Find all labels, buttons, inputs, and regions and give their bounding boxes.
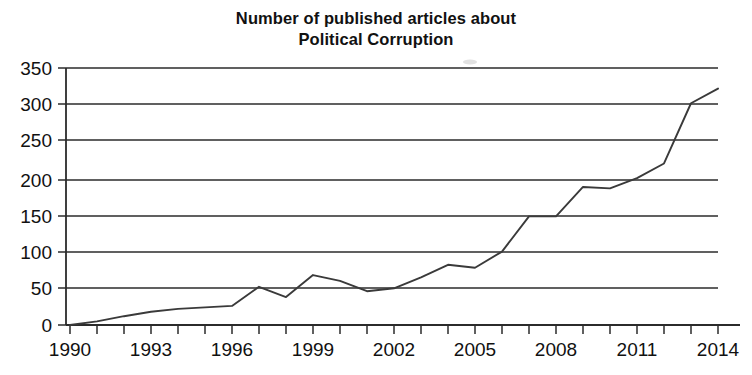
x-tick-label: 1996 [211, 339, 253, 360]
axes [66, 68, 740, 325]
x-tick-label: 2005 [454, 339, 496, 360]
data-series-line [70, 89, 718, 325]
gridlines [66, 68, 718, 288]
x-tick-label: 2011 [617, 339, 658, 360]
x-axis-ticks [70, 325, 718, 334]
x-axis-tick-labels: 199019931996199920022005200820112014 [49, 339, 740, 360]
scan-artifact [463, 59, 477, 64]
y-tick-label: 150 [20, 206, 52, 227]
x-tick-label: 1993 [130, 339, 172, 360]
y-axis-ticks [58, 68, 66, 325]
line-chart-plot: 350 300 250 200 150 100 50 0 19901993199… [0, 0, 752, 375]
y-tick-label: 100 [20, 242, 52, 263]
y-axis-tick-labels: 350 300 250 200 150 100 50 0 [20, 58, 52, 336]
x-tick-label: 2002 [373, 339, 415, 360]
y-tick-label: 350 [20, 58, 52, 79]
y-tick-label: 300 [20, 94, 52, 115]
x-tick-label: 2008 [535, 339, 577, 360]
chart-figure: Number of published articles about Polit… [0, 0, 752, 375]
x-tick-label: 2014 [697, 339, 740, 360]
x-tick-label: 1990 [49, 339, 91, 360]
y-tick-label: 0 [41, 315, 52, 336]
x-tick-label: 1999 [292, 339, 334, 360]
y-tick-label: 250 [20, 130, 52, 151]
y-tick-label: 50 [31, 278, 52, 299]
y-tick-label: 200 [20, 170, 52, 191]
